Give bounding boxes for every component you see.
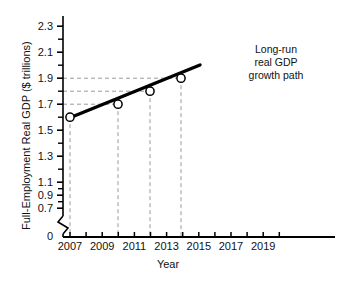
- annot-line-1: Long-run: [255, 43, 297, 55]
- y-axis-break-icon: [58, 216, 68, 234]
- data-series-growth-path: [66, 65, 200, 121]
- ytick-label-1-1: 1.1: [38, 176, 53, 188]
- annot-line-2: real GDP: [254, 56, 297, 68]
- data-point-2011: [146, 87, 154, 95]
- xtick-label-2015: 2015: [187, 240, 211, 252]
- data-point-2013: [177, 74, 185, 82]
- xtick-label-2007: 2007: [58, 240, 82, 252]
- ytick-label-1-9: 1.9: [38, 72, 53, 84]
- ytick-label-0-9: 0.9: [38, 189, 53, 201]
- ytick-label-1-5: 1.5: [38, 124, 53, 136]
- ytick-label-1-3: 1.3: [38, 150, 53, 162]
- y-axis-title: Full-Employment Real GDP ($ trillions): [20, 41, 32, 230]
- ytick-label-2-1: 2.1: [38, 46, 53, 58]
- xtick-label-2013: 2013: [154, 240, 178, 252]
- growth-path-callout: Long-run real GDP growth path: [249, 43, 304, 81]
- chart-figure: 2.3 2.1 1.9 1.7 1.5 1.3 1.1 0.9 0.7 0 Fu…: [0, 0, 349, 283]
- x-axis: 2007 2009 2011 2013 2015 2017 2019 Year: [58, 232, 335, 270]
- growth-path-line: [68, 65, 200, 119]
- ytick-label-2-3: 2.3: [38, 20, 53, 32]
- xtick-label-2011: 2011: [123, 240, 147, 252]
- data-point-2007: [66, 113, 74, 121]
- gdp-growth-line-chart: 2.3 2.1 1.9 1.7 1.5 1.3 1.1 0.9 0.7 0 Fu…: [0, 0, 349, 283]
- xtick-label-2017: 2017: [219, 240, 243, 252]
- xtick-label-2009: 2009: [90, 240, 114, 252]
- origin-label: 0: [47, 230, 53, 242]
- xtick-label-2019: 2019: [251, 240, 275, 252]
- ytick-label-0-7: 0.7: [38, 202, 53, 214]
- annot-line-3: growth path: [249, 69, 304, 81]
- y-axis: 2.3 2.1 1.9 1.7 1.5 1.3 1.1 0.9 0.7 0 Fu…: [20, 16, 68, 242]
- x-axis-title: Year: [157, 258, 180, 270]
- ytick-label-1-7: 1.7: [38, 98, 53, 110]
- data-point-2009: [114, 100, 122, 108]
